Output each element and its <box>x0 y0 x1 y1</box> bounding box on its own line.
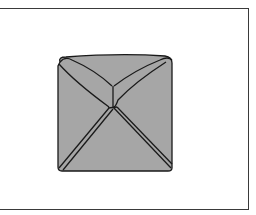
folded-square-diagram <box>0 0 256 215</box>
square-body <box>58 55 172 171</box>
